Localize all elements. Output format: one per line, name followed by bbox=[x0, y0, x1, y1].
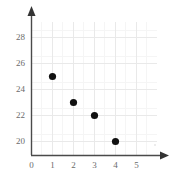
y-tick-label-20: 20 bbox=[8, 137, 25, 146]
x-tick-label-1: 1 bbox=[45, 161, 60, 170]
y-axis bbox=[28, 6, 36, 155]
x-tick-label-5: 5 bbox=[129, 161, 144, 170]
x-tick-label-2: 2 bbox=[66, 161, 81, 170]
x-tick-label-4: 4 bbox=[108, 161, 123, 170]
data-point bbox=[49, 73, 56, 80]
grid-major-vertical bbox=[53, 22, 137, 155]
data-point bbox=[112, 138, 119, 145]
scatter-chart: 28 26 24 22 20 0 1 2 3 4 5 bbox=[0, 0, 174, 180]
x-axis bbox=[31, 152, 169, 160]
x-tick-label-0: 0 bbox=[24, 161, 39, 170]
stray-speck bbox=[154, 144, 155, 145]
y-tick-label-28: 28 bbox=[8, 33, 25, 42]
data-point bbox=[91, 112, 98, 119]
y-tick-label-24: 24 bbox=[8, 85, 25, 94]
plot-area bbox=[0, 0, 174, 180]
data-point bbox=[70, 99, 77, 106]
y-tick-label-22: 22 bbox=[8, 111, 25, 120]
x-tick-label-3: 3 bbox=[87, 161, 102, 170]
y-tick-label-26: 26 bbox=[8, 59, 25, 68]
